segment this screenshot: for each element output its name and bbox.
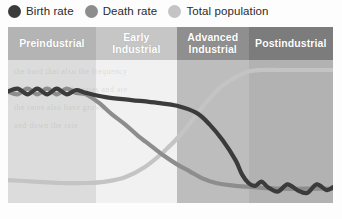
chart-series-svg: [8, 27, 333, 203]
legend-label-death-rate: Death rate: [103, 5, 158, 17]
demographic-transition-figure: Birth rate Death rate Total population P…: [0, 0, 342, 219]
circle-marker-dark-icon: [8, 5, 21, 18]
legend-label-birth-rate: Birth rate: [26, 5, 74, 17]
circle-marker-medium-icon: [85, 5, 98, 18]
legend-item-death-rate: Death rate: [85, 2, 158, 20]
chart-plot-area: Preindustrial Early Industrial Advanced …: [8, 27, 333, 203]
legend-item-birth-rate: Birth rate: [8, 2, 74, 20]
series-line-birth-rate: [8, 89, 333, 194]
chart-legend: Birth rate Death rate Total population: [8, 2, 334, 20]
legend-label-total-population: Total population: [186, 5, 268, 17]
circle-marker-light-icon: [168, 5, 181, 18]
legend-item-total-population: Total population: [168, 2, 268, 20]
